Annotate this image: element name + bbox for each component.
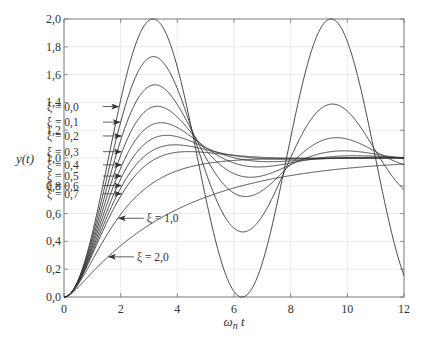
y-tick-label: 0,0 bbox=[46, 290, 61, 304]
y-tick-label: 0,4 bbox=[46, 234, 61, 248]
x-tick-label: 12 bbox=[398, 302, 410, 316]
x-tick-label: 10 bbox=[341, 302, 353, 316]
annotation-label: ξ = 2,0 bbox=[137, 251, 169, 264]
x-tick-label: 2 bbox=[118, 302, 124, 316]
y-tick-label: 2,0 bbox=[46, 12, 61, 26]
y-tick-label: 0,6 bbox=[46, 207, 61, 221]
annotation-label: ξ = 0,1 bbox=[47, 116, 79, 129]
step-response-chart: 024681012 0,00,20,40,60,81,01,21,41,61,8… bbox=[0, 0, 425, 340]
x-tick-label: 0 bbox=[61, 302, 67, 316]
annotation-label: ξ = 0,0 bbox=[47, 101, 79, 114]
curve-annotations: ξ = 0,0ξ = 0,1ξ = 0,2ξ = 0,3ξ = 0,4ξ = 0… bbox=[47, 101, 179, 264]
annotation-label: ξ = 0,2 bbox=[47, 130, 79, 143]
x-tick-label: 8 bbox=[288, 302, 294, 316]
y-axis-title: y(t) bbox=[14, 151, 34, 166]
annotation-label: ξ = 0,3 bbox=[47, 146, 79, 159]
x-axis-ticks: 024681012 bbox=[61, 302, 410, 316]
x-axis-title: ωn t bbox=[223, 314, 244, 331]
y-tick-label: 1,8 bbox=[46, 40, 61, 54]
y-tick-label: 0,2 bbox=[46, 262, 61, 276]
annotation-label: ξ = 0,7 bbox=[47, 188, 79, 201]
x-tick-label: 4 bbox=[174, 302, 180, 316]
y-tick-label: 1,6 bbox=[46, 68, 61, 82]
annotation-label: ξ = 1,0 bbox=[147, 212, 179, 225]
